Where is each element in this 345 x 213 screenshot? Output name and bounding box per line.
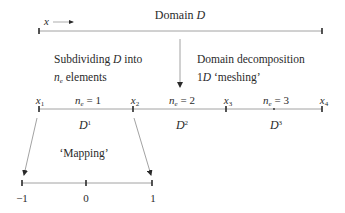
node-label-4: x4 [320, 94, 328, 106]
reference-element-line [22, 180, 152, 186]
element-subscript: e [269, 100, 272, 108]
node-index: 3 [229, 100, 233, 108]
element-count-subscript: e [60, 77, 63, 85]
subdomain-symbol: D [176, 118, 185, 132]
domain-line [39, 28, 322, 34]
subdomain-label-2: D2 [176, 119, 188, 131]
annotation-text: Subdividing [54, 53, 110, 65]
ref-label-minus-one: −1 [16, 192, 28, 204]
domain-symbol: D [197, 8, 206, 22]
subdividing-annotation-line2: ne elements [54, 71, 107, 83]
domain-title: Domain D [155, 9, 205, 21]
node-label-1: x1 [36, 94, 44, 106]
node-label-3: x3 [224, 94, 232, 106]
mapping-arrow-right-icon [134, 118, 151, 175]
element-subscript: e [81, 100, 84, 108]
node-index: 2 [136, 100, 140, 108]
subdomain-symbol: D [270, 118, 279, 132]
node-label-2: x2 [131, 94, 139, 106]
domain-title-text: Domain [155, 8, 194, 22]
subdomain-label-1: D1 [79, 119, 91, 131]
mapping-arrow-left-icon [24, 118, 37, 175]
subdomain-index: 2 [185, 119, 189, 127]
decomposition-annotation-line2: 1D ‘meshing’ [197, 71, 261, 83]
element-number-3: ne = 3 [263, 94, 289, 106]
annotation-text: ‘meshing’ [214, 71, 261, 83]
element-value: = 2 [180, 94, 194, 106]
subdomain-index: 3 [279, 119, 283, 127]
subdomain-index: 1 [88, 119, 92, 127]
element-subscript: e [175, 100, 178, 108]
subdomain-symbol: D [79, 118, 88, 132]
node-index: 1 [41, 100, 45, 108]
subdividing-annotation-line1: Subdividing D into [54, 53, 142, 65]
element-number-2: ne = 2 [169, 94, 195, 106]
element-value: = 3 [274, 94, 288, 106]
annotation-text: elements [66, 71, 107, 83]
node-index: 4 [325, 100, 329, 108]
element-value: = 1 [86, 94, 100, 106]
domain-discretization-diagram [0, 0, 345, 213]
subdomain-label-3: D3 [270, 119, 282, 131]
ref-label-zero: 0 [83, 192, 89, 204]
x-coordinate-label: x [44, 15, 49, 27]
dimension-symbol: D [203, 71, 211, 83]
element-number-1: ne = 1 [75, 94, 101, 106]
annotation-text: into [124, 53, 142, 65]
domain-symbol: D [113, 53, 121, 65]
mapping-label: ‘Mapping’ [59, 147, 108, 159]
element-3-midpoint-dot [273, 108, 275, 110]
ref-label-one: 1 [150, 192, 156, 204]
decomposition-annotation-line1: Domain decomposition [197, 53, 305, 65]
